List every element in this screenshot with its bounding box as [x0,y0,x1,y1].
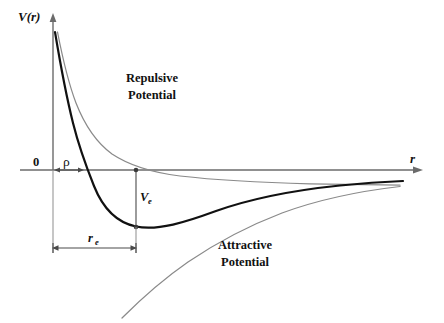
re-label: r [88,231,93,245]
attractive-label-line2: Potential [221,255,269,269]
attractive-potential-label: Attractive Potential [218,238,273,269]
repulsive-label-line1: Repulsive [126,71,179,85]
attractive-label-line1: Attractive [218,238,273,252]
origin-label: 0 [33,155,39,169]
ve-label-subscript: e [148,196,152,206]
re-label-subscript: e [95,237,99,247]
repulsive-potential-curve [58,32,401,185]
repulsive-potential-label: Repulsive Potential [126,71,179,102]
y-axis-arrowhead [50,13,57,22]
attractive-potential-curve [122,187,400,319]
y-axis-label: V(r) [18,9,40,24]
potential-curve-chart: V(r) r 0 Repulsive Potential Attractive … [0,0,444,323]
rho-arrow-left [54,168,60,173]
x-axis-label: r [410,151,416,166]
ve-top-marker [134,168,139,173]
re-dimension: r e [52,170,137,253]
repulsive-label-line2: Potential [128,88,176,102]
potential-energy-figure: V(r) r 0 Repulsive Potential Attractive … [0,0,444,323]
rho-dimension: ρ [54,154,84,172]
rho-arrow-right [78,168,84,173]
x-axis-arrowhead [413,167,423,174]
rho-label: ρ [63,154,70,169]
total-potential-curve [55,32,403,228]
ve-dimension: V e [134,168,152,230]
